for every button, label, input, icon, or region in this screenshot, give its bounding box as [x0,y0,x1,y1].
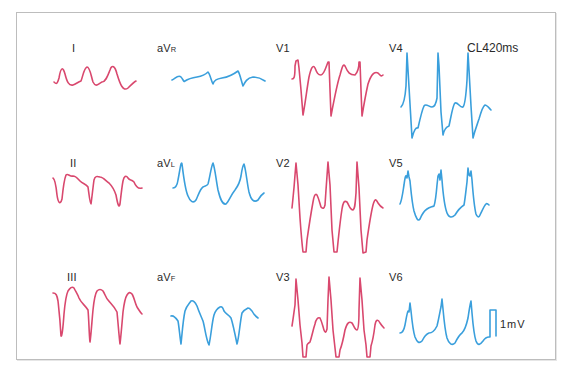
trace-lead-V2 [292,162,383,253]
trace-lead-aVR [172,71,265,86]
trace-lead-II [53,174,142,205]
trace-lead-III [53,287,142,344]
trace-lead-V6 [400,299,496,344]
ecg-traces [0,0,565,386]
trace-lead-V5 [400,168,489,220]
trace-lead-aVF [171,301,258,345]
trace-lead-V1 [292,60,383,116]
trace-lead-aVL [173,163,264,204]
trace-lead-I [54,67,136,90]
trace-lead-V3 [292,277,384,357]
trace-lead-V4 [401,53,491,138]
